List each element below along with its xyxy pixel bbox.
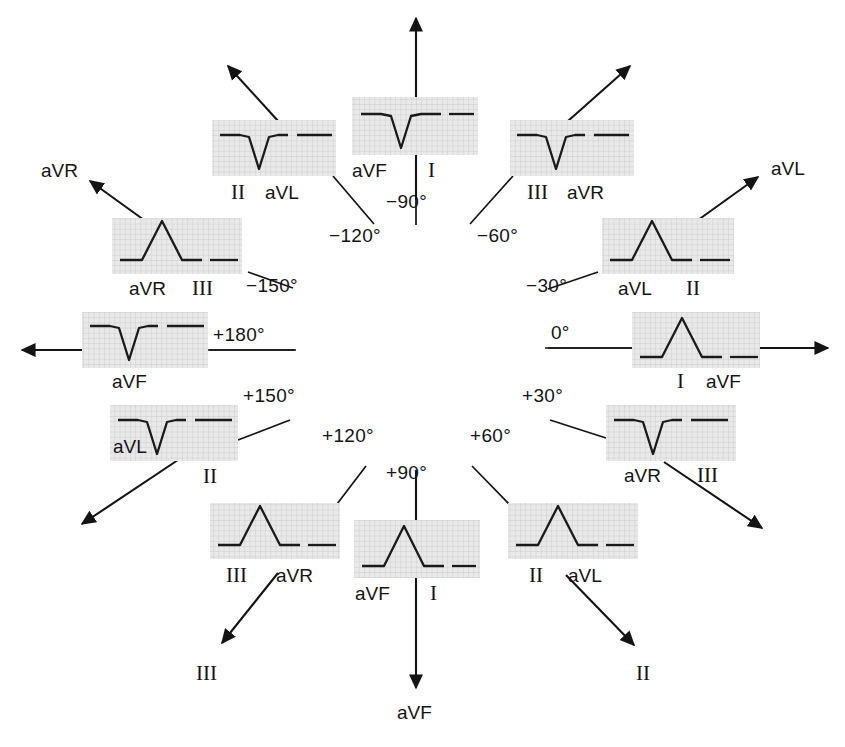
strip-label-minus-120-left: II [231,182,245,203]
arrow-label-lead-ii: II [636,663,650,684]
strip-label-minus-150-right: III [192,278,213,299]
angle-label-plus-30: +30° [522,386,563,405]
ray-plus-150 [82,460,178,524]
strip-label-plus-150-right: II [203,466,217,487]
angle-label-plus-90: +90° [386,463,427,482]
angle-label-plus-180: +180° [213,325,265,344]
ecg-strip-plus-60 [508,503,638,559]
leader-minus-120 [333,176,374,224]
strip-label-plus-120-left: III [226,565,247,586]
strip-label-zero-right: aVF [706,372,741,391]
strip-label-plus-60-right: aVL [568,566,602,585]
leader-plus-150 [238,420,290,440]
ecg-strip-minus-30 [602,218,734,274]
ecg-strip-plus-180 [82,312,208,368]
strip-label-minus-60-left: III [527,182,548,203]
strip-label-plus-30-left: aVR [624,466,661,485]
angle-label-zero: 0° [551,323,570,342]
angle-label-plus-60: +60° [470,426,511,445]
strip-label-plus-180: aVF [112,372,147,391]
ray-minus-120 [228,66,279,122]
strip-label-minus-90-left: aVF [352,161,387,180]
arrow-label-avl-bottom: aVL [113,437,147,456]
strip-label-minus-120-right: aVL [265,183,299,202]
arrow-label-avf: aVF [397,703,432,722]
angle-label-plus-150: +150° [243,386,295,405]
ecg-strip-minus-60 [510,120,634,176]
strip-label-minus-90-right: I [428,160,435,181]
ecg-strip-plus-120 [210,503,340,559]
arrow-label-avr: aVR [41,161,78,180]
strip-label-minus-150-left: aVR [129,279,166,298]
angle-label-plus-120: +120° [322,426,374,445]
strip-label-plus-60-left: II [529,565,543,586]
ecg-strip-minus-90 [352,97,478,155]
strip-label-plus-90-right: I [430,583,437,604]
strip-label-plus-120-right: aVR [276,566,313,585]
angle-label-minus-150: −150° [246,276,298,295]
angle-label-minus-90: −90° [386,192,427,211]
leader-plus-120 [334,466,366,508]
strip-label-plus-30-right: III [697,465,718,486]
ecg-strip-plus-90 [354,520,480,578]
angle-label-minus-120: −120° [329,226,381,245]
ecg-strip-zero [632,312,760,368]
leader-plus-60 [472,466,513,508]
leader-plus-30 [550,420,606,438]
arrow-label-avl-top: aVL [771,159,805,178]
strip-label-minus-60-right: aVR [567,183,604,202]
ecg-hexaxial-diagram: aVF I II aVL III aVR aVR III aVL II aVF … [0,0,845,747]
ecg-strip-minus-150 [112,218,242,274]
strip-label-minus-30-left: aVL [618,279,652,298]
ray-minus-60 [568,66,630,121]
ecg-strip-minus-120 [212,120,336,176]
strip-label-zero-left: I [677,371,684,392]
arrow-label-lead-iii: III [196,663,217,684]
angle-label-minus-60: −60° [477,226,518,245]
ecg-strip-plus-30 [606,405,736,461]
angle-label-minus-30: −30° [526,276,567,295]
strip-label-minus-30-right: II [686,278,700,299]
leader-minus-60 [470,176,513,224]
leader-lines [208,155,632,560]
angle-underlines [209,348,632,350]
strip-label-plus-90-left: aVF [355,584,390,603]
